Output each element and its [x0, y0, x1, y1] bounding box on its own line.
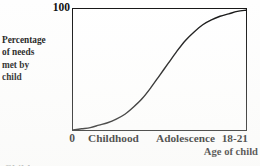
- x-axis-label-18-21: 18-21: [222, 133, 248, 144]
- x-axis-label-childhood: Childhood: [88, 133, 139, 144]
- needs-met-curve: [73, 10, 246, 130]
- sigmoid-curve-svg: [73, 9, 246, 130]
- y-axis-title-line: child: [2, 71, 68, 83]
- plot-area: [72, 8, 247, 131]
- page-bleed-text: Child: [4, 163, 30, 166]
- y-axis-title-line: Percentage: [2, 34, 68, 46]
- y-axis-max-tick-label: 100: [46, 2, 70, 14]
- x-axis-title: Age of child: [204, 147, 258, 158]
- y-axis-title: Percentage of needs met by child: [2, 34, 68, 83]
- x-axis-label-adolescence: Adolescence: [156, 133, 215, 144]
- figure-container: Percentage of needs met by child 100 0 C…: [0, 0, 260, 166]
- y-axis-title-line: of needs: [2, 46, 68, 58]
- x-axis-stage-label-row: Childhood Adolescence 18-21: [72, 133, 248, 146]
- y-axis-title-line: met by: [2, 59, 68, 71]
